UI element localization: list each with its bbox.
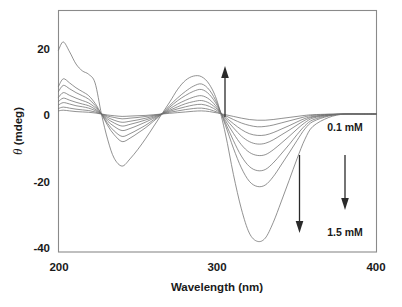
y-tick-label: 0 [44, 109, 50, 121]
y-axis-title-unit: (mdeg) [12, 107, 24, 149]
spectra-curves-group [59, 42, 377, 242]
y-tick-label: -20 [33, 176, 50, 188]
bottom-concentration-label: 1.5 mM [327, 226, 363, 238]
x-tick-label: 200 [49, 261, 68, 273]
svg-text:θ (mdeg): θ (mdeg) [10, 107, 25, 155]
y-axis-tick-labels: 20 0 -20 -40 [33, 43, 50, 254]
y-axis-title: θ (mdeg) [10, 107, 25, 155]
down-arrow-head [296, 221, 304, 233]
spectrum-curve [59, 42, 377, 242]
x-tick-label: 300 [207, 261, 226, 273]
top-concentration-label: 0.1 mM [327, 121, 363, 133]
x-axis-title: Wavelength (nm) [171, 281, 263, 293]
x-axis-tick-labels: 200 300 400 [49, 261, 385, 273]
cd-spectra-figure: 20 0 -20 -40 200 300 400 Wavelength (nm)… [0, 0, 402, 307]
down-arrow-legend-head [341, 198, 349, 210]
chart-canvas: 20 0 -20 -40 200 300 400 Wavelength (nm)… [0, 0, 402, 307]
down-arrow-legend-icon [341, 155, 349, 210]
y-tick-label: -40 [33, 242, 50, 254]
down-arrow-curves-icon [296, 155, 304, 233]
up-arrow-icon [221, 66, 229, 117]
up-arrow-head [221, 66, 229, 78]
y-tick-label: 20 [37, 43, 50, 55]
x-tick-label: 400 [366, 261, 385, 273]
